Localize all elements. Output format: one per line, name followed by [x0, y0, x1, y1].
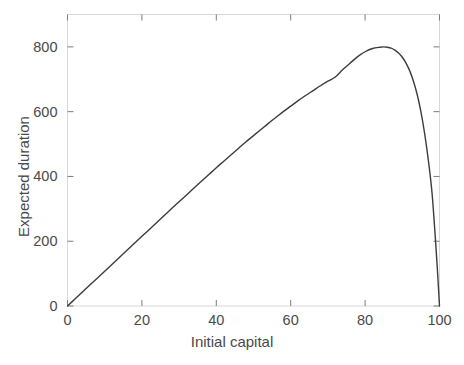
- plot-canvas: [0, 0, 464, 365]
- x-tick-label: 100: [427, 312, 451, 328]
- x-tick-label: 80: [357, 312, 373, 328]
- chart-figure: 0200400600800 020406080100 Expected dura…: [0, 0, 464, 365]
- x-axis-title: Initial capital: [0, 333, 464, 350]
- x-tick-label: 60: [283, 312, 299, 328]
- x-axis-ticks: [68, 15, 440, 307]
- y-axis-title: Expected duration: [15, 112, 32, 242]
- data-series-line: [68, 47, 440, 306]
- plot-frame: [68, 15, 440, 307]
- x-tick-label: 0: [63, 312, 71, 328]
- y-axis-ticks: [68, 47, 440, 306]
- y-axis-title-container: Expected duration: [6, 0, 36, 320]
- x-tick-label: 40: [208, 312, 224, 328]
- x-tick-label: 20: [134, 312, 150, 328]
